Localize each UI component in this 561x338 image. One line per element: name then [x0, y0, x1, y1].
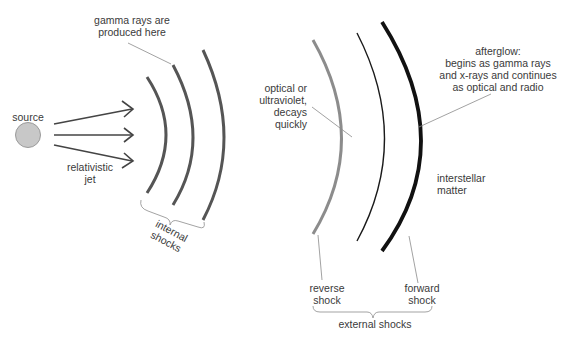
optical-label: optical or ultraviolet, decays quickly [232, 82, 307, 130]
internal-shock-arc-2 [173, 65, 193, 205]
internal-shock-arc-3 [203, 50, 224, 220]
source-label: source [0, 111, 56, 123]
jet-arrow-upper [54, 109, 132, 124]
internal-shock-arc-1 [147, 77, 166, 193]
reverse-shock-label: reverse shock [302, 282, 352, 306]
optical-leader-line [312, 107, 352, 137]
gamma-rays-label: gamma rays are produced here [88, 14, 176, 38]
relativistic-jet-arrows [54, 101, 133, 168]
contact-arc [357, 33, 385, 241]
internal-shocks [147, 50, 224, 220]
source-node [16, 123, 41, 148]
forward-leader-line [409, 236, 418, 283]
afterglow-leader-line [419, 94, 491, 127]
reverse-shock-arc [313, 40, 342, 234]
external-shocks-label: external shocks [330, 318, 420, 330]
jet-label: relativistic jet [62, 161, 118, 185]
external-shocks-brace [313, 306, 432, 318]
jet-arrow-lower [54, 145, 132, 161]
afterglow-label: afterglow: begins as gamma rays and x-ra… [430, 45, 561, 93]
forward-shock-arc [382, 22, 421, 251]
forward-shock-label: forward shock [397, 282, 447, 306]
reverse-leader-line [318, 235, 322, 280]
gamma-leader-line [128, 43, 171, 64]
interstellar-matter-label: interstellar matter [437, 172, 507, 196]
